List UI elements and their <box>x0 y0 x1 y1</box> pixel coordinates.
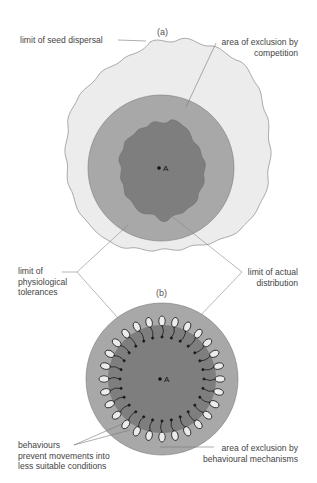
label-exclusion-competition: area of exclusion by competition <box>218 37 298 58</box>
panel-a-figure <box>65 38 271 251</box>
label-line: distribution <box>222 278 298 289</box>
arrowhead-icon <box>199 360 201 362</box>
arrowhead-icon <box>152 337 154 339</box>
point-a-label: A <box>163 164 168 173</box>
arrowhead-icon <box>143 416 145 418</box>
ecology-distribution-diagram <box>0 0 317 483</box>
label-line: behavioural mechanisms <box>196 454 298 465</box>
label-line: limit of <box>18 266 67 277</box>
behaviour-loop-icon <box>215 376 225 382</box>
label-line: behaviours <box>18 440 110 451</box>
behaviour-loop-icon <box>159 432 165 442</box>
behavioural-distribution-circle <box>108 325 216 433</box>
arrowhead-icon <box>135 411 137 413</box>
arrowhead-icon <box>135 345 137 347</box>
label-line: physiological <box>18 277 67 288</box>
label-line: prevent movements into <box>18 451 110 462</box>
arrowhead-icon <box>179 340 181 342</box>
label-line: limit of actual <box>222 267 298 278</box>
arrowhead-icon <box>203 378 205 380</box>
arrowhead-icon <box>123 396 125 398</box>
point-a-label-b: A <box>164 375 169 384</box>
behaviour-loop-icon <box>159 316 165 326</box>
arrowhead-icon <box>161 336 163 338</box>
arrowhead-icon <box>170 419 172 421</box>
arrowhead-icon <box>202 387 204 389</box>
point-a-marker-b <box>158 377 162 381</box>
arrowhead-icon <box>152 419 154 421</box>
arrowhead-icon <box>187 345 189 347</box>
label-line: tolerances <box>18 287 67 298</box>
label-line: competition <box>218 48 298 59</box>
label-actual-distribution: limit of actual distribution <box>222 267 298 288</box>
arrowhead-icon <box>202 369 204 371</box>
arrowhead-icon <box>120 387 122 389</box>
point-a-marker <box>157 166 161 170</box>
label-exclusion-behaviour: area of exclusion by behavioural mechani… <box>196 443 298 464</box>
arrowhead-icon <box>128 352 130 354</box>
panel-b-label: (b) <box>156 288 167 298</box>
behaviour-loop-icon <box>99 376 109 382</box>
panel-b-figure <box>86 303 238 455</box>
label-behaviours: behaviours prevent movements into less s… <box>18 440 110 472</box>
arrowhead-icon <box>187 411 189 413</box>
arrowhead-icon <box>194 352 196 354</box>
label-line: area of exclusion by <box>218 37 298 48</box>
panel-a-label: (a) <box>157 27 168 37</box>
label-seed-dispersal: limit of seed dispersal <box>20 35 103 46</box>
arrowhead-icon <box>128 404 130 406</box>
arrowhead-icon <box>199 396 201 398</box>
arrowhead-icon <box>161 420 163 422</box>
label-line: area of exclusion by <box>196 443 298 454</box>
arrowhead-icon <box>120 369 122 371</box>
label-line: less suitable conditions <box>18 461 110 472</box>
arrowhead-icon <box>179 416 181 418</box>
arrowhead-icon <box>143 340 145 342</box>
label-physiological-tolerances: limit of physiological tolerances <box>18 266 67 298</box>
arrowhead-icon <box>194 404 196 406</box>
arrowhead-icon <box>119 378 121 380</box>
arrowhead-icon <box>170 337 172 339</box>
arrowhead-icon <box>123 360 125 362</box>
